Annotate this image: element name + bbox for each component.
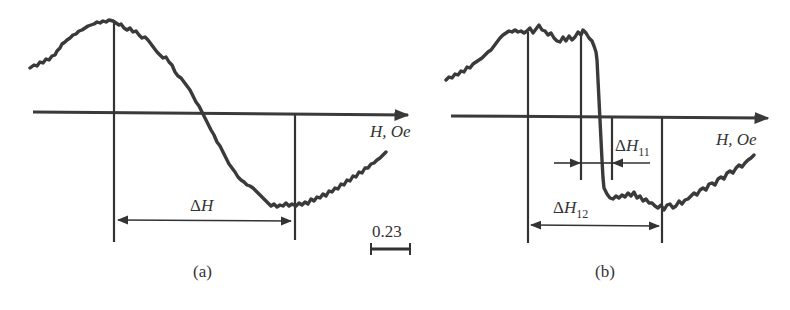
delta-symbol: Δ [190, 196, 201, 215]
delta-h12-var: H [564, 198, 576, 217]
delta-h11-subscript: 11 [638, 145, 650, 159]
delta-h12-label: ΔH12 [553, 198, 588, 222]
delta-h-var: H [201, 196, 213, 215]
delta-h-label: ΔH [190, 196, 213, 216]
delta-symbol: Δ [615, 136, 626, 155]
delta-h11-label: ΔH11 [615, 136, 650, 160]
h-axis-b [451, 116, 768, 118]
scale-bar [371, 243, 410, 255]
panel-a [30, 20, 410, 255]
delta-h-dimension-arrow [118, 220, 291, 221]
delta-h11-var: H [626, 136, 638, 155]
panel-caption-a: (a) [193, 262, 212, 282]
delta-symbol: Δ [553, 198, 564, 217]
axis-label-b: H, Oe [716, 130, 757, 150]
scale-bar-value: 0.23 [372, 222, 402, 242]
diagram-canvas [0, 0, 790, 310]
panel-caption-b: (b) [595, 262, 615, 282]
delta-h12-dimension-arrow [531, 225, 659, 226]
h-axis-a [33, 112, 408, 115]
delta-h12-subscript: 12 [576, 207, 588, 221]
axis-label-a: H, Oe [370, 122, 411, 142]
